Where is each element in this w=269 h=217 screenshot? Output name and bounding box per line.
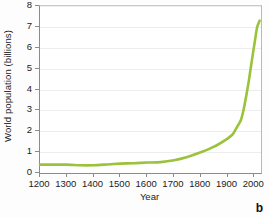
y-tick-label-3: 3: [22, 104, 32, 114]
population-curve-layer: [40, 6, 261, 173]
y-tick-label-8: 8: [22, 0, 32, 10]
y-tick-label-4: 4: [22, 84, 32, 94]
x-tick-mark-1400: [93, 173, 94, 177]
panel-label-b: b: [256, 201, 263, 215]
y-tick-label-2: 2: [22, 125, 32, 135]
x-axis-title: Year: [39, 191, 260, 202]
x-tick-mark-1600: [146, 173, 147, 177]
x-tick-mark-1800: [200, 173, 201, 177]
x-tick-mark-1200: [39, 173, 40, 177]
y-axis-title: World population (billions): [1, 0, 15, 172]
x-tick-mark-1700: [173, 173, 174, 177]
y-tick-label-7: 7: [22, 21, 32, 31]
y-tick-label-0: 0: [22, 167, 32, 177]
population-line-series: [40, 21, 260, 166]
figure-panel-b: World population (billions) 012345678 12…: [0, 0, 269, 217]
x-tick-mark-1900: [227, 173, 228, 177]
y-tick-label-6: 6: [22, 42, 32, 52]
y-tick-label-1: 1: [22, 146, 32, 156]
plot-area: [39, 5, 262, 174]
x-tick-mark-2000: [253, 173, 254, 177]
x-tick-mark-1300: [66, 173, 67, 177]
x-tick-label-2000: 2000: [236, 178, 269, 189]
y-tick-label-5: 5: [22, 63, 32, 73]
x-tick-mark-1500: [119, 173, 120, 177]
